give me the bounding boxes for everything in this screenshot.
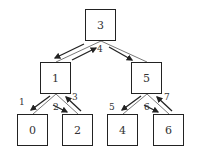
step-label-3: 3 (72, 93, 78, 102)
node-5: 5 (131, 62, 162, 94)
node-1: 1 (40, 62, 71, 94)
node-0: 0 (17, 114, 48, 146)
node-4: 4 (107, 114, 138, 146)
node-6: 6 (153, 114, 184, 146)
step-label-1: 1 (19, 98, 25, 107)
step-label-7: 7 (164, 93, 170, 102)
arrow-1-to-3 (72, 48, 96, 60)
node-3: 3 (85, 9, 116, 41)
tree-diagram: 3 1 5 0 2 4 6 1 2 3 4 5 6 7 (0, 0, 198, 156)
arrow-5-to-4 (122, 96, 141, 110)
node-2: 2 (62, 114, 93, 146)
step-label-6: 6 (144, 103, 150, 112)
step-label-2: 2 (53, 103, 59, 112)
step-label-4: 4 (97, 45, 103, 54)
step-label-5: 5 (109, 103, 115, 112)
